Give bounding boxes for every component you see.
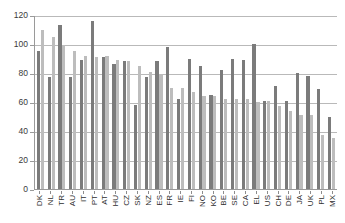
- x-axis-category: BE: [218, 191, 229, 223]
- x-axis-category: US: [261, 191, 272, 223]
- bar: [299, 115, 302, 189]
- bar: [102, 57, 105, 189]
- x-axis-category: JA: [294, 191, 305, 223]
- x-axis-category: NO: [196, 191, 207, 223]
- x-tick-label: IT: [78, 195, 87, 202]
- x-tick-mark: [191, 191, 192, 194]
- x-axis-category: NZ: [142, 191, 153, 223]
- bar-group: [57, 16, 68, 189]
- bar: [263, 101, 266, 189]
- bar-group: [251, 16, 262, 189]
- x-axis-category: UK: [305, 191, 316, 223]
- x-axis-category: IT: [77, 191, 88, 223]
- x-axis-category: SE: [229, 191, 240, 223]
- bar: [220, 70, 223, 189]
- x-axis-category: EL: [251, 191, 262, 223]
- bar: [37, 51, 40, 189]
- x-tick-label: HU: [111, 195, 120, 207]
- bar: [332, 138, 335, 189]
- x-tick-label: CA: [241, 195, 250, 206]
- x-tick-label: SE: [230, 195, 239, 206]
- x-tick-mark: [126, 191, 127, 194]
- x-tick-mark: [256, 191, 257, 194]
- bar-group: [67, 16, 78, 189]
- x-tick-mark: [299, 191, 300, 194]
- bar: [80, 60, 83, 189]
- bar: [73, 51, 76, 189]
- x-axis-category: NL: [45, 191, 56, 223]
- x-tick-mark: [332, 191, 333, 194]
- bar: [170, 88, 173, 190]
- x-tick-label: KO: [208, 195, 217, 207]
- bar: [267, 101, 270, 189]
- x-axis: DKNLTRAUITPTATHUCZSKNZESFRIEFINOKOBESECA…: [34, 191, 337, 223]
- bar: [159, 74, 162, 189]
- x-tick-label: MX: [327, 195, 336, 207]
- bar: [310, 115, 313, 189]
- x-tick-mark: [213, 191, 214, 194]
- x-tick-mark: [72, 191, 73, 194]
- bar-group: [121, 16, 132, 189]
- x-tick-label: DK: [35, 195, 44, 206]
- bar: [155, 61, 158, 189]
- bar: [285, 101, 288, 189]
- plot-area: [34, 16, 337, 190]
- bar-group: [294, 16, 305, 189]
- x-axis-category: CH: [272, 191, 283, 223]
- bar-group: [186, 16, 197, 189]
- x-tick-mark: [245, 191, 246, 194]
- x-axis-category: CA: [240, 191, 251, 223]
- x-tick-label: PL: [316, 195, 325, 205]
- bar: [145, 77, 148, 189]
- x-tick-label: UK: [306, 195, 315, 206]
- y-tick-value: 80: [0, 68, 28, 78]
- bar: [213, 96, 216, 189]
- bar: [317, 89, 320, 189]
- bar: [202, 96, 205, 189]
- x-tick-mark: [50, 191, 51, 194]
- bar: [274, 86, 277, 189]
- bar: [242, 60, 245, 189]
- x-axis-category: DE: [283, 191, 294, 223]
- bar: [138, 66, 141, 189]
- bar: [134, 105, 137, 189]
- bar: [166, 47, 169, 189]
- x-tick-label: CZ: [122, 195, 131, 206]
- x-tick-label: DE: [284, 195, 293, 206]
- bar: [306, 76, 309, 189]
- x-tick-label: JA: [295, 195, 304, 204]
- bar: [58, 25, 61, 189]
- bar: [62, 45, 65, 189]
- bar-group: [326, 16, 337, 189]
- bar: [41, 30, 44, 190]
- x-tick-label: NZ: [143, 195, 152, 206]
- bar-group: [89, 16, 100, 189]
- x-tick-mark: [310, 191, 311, 194]
- bar-group: [78, 16, 89, 189]
- x-tick-label: TR: [57, 195, 66, 206]
- x-tick-mark: [169, 191, 170, 194]
- x-tick-mark: [159, 191, 160, 194]
- x-axis-category: CZ: [121, 191, 132, 223]
- bar-group: [315, 16, 326, 189]
- bar: [224, 99, 227, 189]
- bar: [123, 61, 126, 189]
- bar-group: [100, 16, 111, 189]
- x-tick-label: NL: [46, 195, 55, 205]
- bar: [52, 37, 55, 189]
- bar: [181, 88, 184, 190]
- bar-group: [154, 16, 165, 189]
- bar-group: [229, 16, 240, 189]
- x-axis-category: FR: [164, 191, 175, 223]
- x-axis-category: ES: [153, 191, 164, 223]
- x-tick-mark: [234, 191, 235, 194]
- x-tick-mark: [94, 191, 95, 194]
- bar: [116, 60, 119, 189]
- bar-group: [46, 16, 57, 189]
- y-tick-value: 60: [0, 97, 28, 107]
- bar-group: [305, 16, 316, 189]
- bar: [112, 64, 115, 189]
- x-axis-category: IE: [175, 191, 186, 223]
- x-axis-category: PL: [316, 191, 327, 223]
- bar-group: [283, 16, 294, 189]
